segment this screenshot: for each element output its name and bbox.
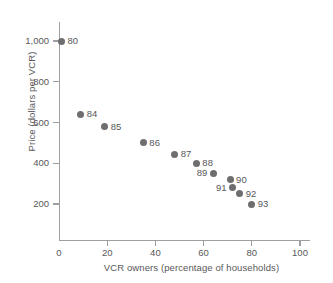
x-tick-mark: [155, 240, 156, 246]
y-tick-mark: [53, 163, 59, 164]
data-point-label-91: 91: [216, 182, 227, 193]
data-point-label-84: 84: [87, 108, 98, 119]
data-point-84: [77, 111, 84, 118]
data-point-label-93: 93: [258, 198, 269, 209]
data-point-86: [140, 139, 147, 146]
data-point-88: [193, 160, 200, 167]
x-tick-label: 80: [232, 247, 272, 258]
data-point-label-85: 85: [111, 121, 122, 132]
y-tick-mark: [53, 81, 59, 82]
x-tick-label: 40: [135, 247, 175, 258]
x-tick-label: 20: [87, 247, 127, 258]
y-tick-mark: [53, 203, 59, 204]
x-tick-mark: [107, 240, 108, 246]
x-tick-mark: [299, 240, 300, 246]
y-tick-label: 400: [3, 157, 49, 168]
data-point-89: [210, 170, 217, 177]
x-axis-title: VCR owners (percentage of households): [59, 262, 324, 273]
data-point-92: [236, 190, 243, 197]
y-tick-label: 1,000: [3, 35, 49, 46]
x-tick-mark: [251, 240, 252, 246]
x-axis-line: [59, 240, 310, 241]
data-point-91: [229, 184, 236, 191]
data-point-93: [248, 201, 255, 208]
x-tick-label: 60: [184, 247, 224, 258]
data-point-label-80: 80: [67, 35, 78, 46]
y-tick-label: 800: [3, 76, 49, 87]
data-point-87: [171, 151, 178, 158]
y-tick-label: 200: [3, 198, 49, 209]
y-tick-mark: [53, 122, 59, 123]
y-axis-title: Price (dollars per VCR): [26, 27, 37, 177]
data-point-label-92: 92: [246, 188, 257, 199]
data-point-label-89: 89: [197, 167, 208, 178]
data-point-label-87: 87: [181, 148, 192, 159]
x-tick-label: 0: [39, 247, 79, 258]
data-point-85: [101, 123, 108, 130]
data-point-80: [58, 38, 65, 45]
y-tick-label: 600: [3, 117, 49, 128]
data-point-90: [227, 176, 234, 183]
data-point-label-86: 86: [149, 137, 160, 148]
x-tick-label: 100: [280, 247, 320, 258]
y-axis-line: [59, 22, 60, 241]
scatter-chart: Price (dollars per VCR) VCR owners (perc…: [0, 0, 333, 283]
data-point-label-90: 90: [236, 174, 247, 185]
x-tick-mark: [203, 240, 204, 246]
